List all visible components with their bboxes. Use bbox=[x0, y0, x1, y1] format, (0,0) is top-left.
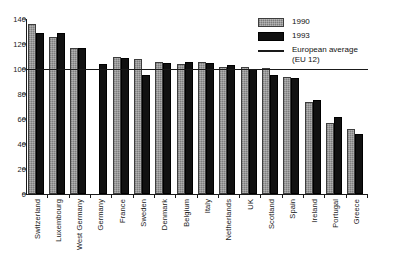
bar-1990 bbox=[283, 77, 291, 195]
bar-1993 bbox=[99, 64, 107, 194]
x-axis-label: Ireland bbox=[311, 199, 319, 223]
x-axis-label: Netherlands bbox=[225, 199, 233, 241]
legend-label-european-average: European average (EU 12) bbox=[292, 45, 358, 64]
bar-1990 bbox=[113, 57, 121, 195]
bar-group bbox=[155, 19, 171, 194]
bar-1990 bbox=[241, 67, 249, 195]
x-axis-label: France bbox=[119, 199, 127, 223]
x-axis-label: UK bbox=[247, 199, 255, 210]
bar-1990 bbox=[305, 102, 313, 195]
bar-1993 bbox=[142, 75, 150, 194]
legend: 1990 1993 European average (EU 12) bbox=[258, 17, 390, 68]
bar-group bbox=[198, 19, 214, 194]
bar-group bbox=[219, 19, 235, 194]
x-axis-label: Scotland bbox=[268, 199, 276, 229]
x-axis-label: Greece bbox=[353, 199, 361, 224]
black-swatch-icon bbox=[258, 32, 284, 41]
bar-1990 bbox=[219, 67, 227, 195]
bar-group bbox=[113, 19, 129, 194]
bar-group bbox=[241, 19, 257, 194]
bar-1993 bbox=[185, 62, 193, 195]
x-axis-label: Spain bbox=[289, 199, 297, 219]
bar-group bbox=[134, 19, 150, 194]
legend-item-1990: 1990 bbox=[258, 17, 390, 27]
european-average-reference-line bbox=[26, 69, 368, 70]
legend-label-1990: 1990 bbox=[292, 17, 310, 27]
bar-1993 bbox=[313, 100, 321, 194]
bar-1993 bbox=[57, 33, 65, 194]
bar-1990 bbox=[347, 129, 355, 194]
bar-1993 bbox=[163, 63, 171, 194]
bar-1990 bbox=[49, 37, 57, 195]
bar-group bbox=[49, 19, 65, 194]
x-axis-label: Belgium bbox=[183, 199, 191, 227]
bar-1990 bbox=[155, 62, 163, 195]
bar-1993 bbox=[36, 33, 44, 194]
bar-1990 bbox=[177, 64, 185, 194]
bar-1990 bbox=[198, 62, 206, 195]
x-axis-label: West Germany bbox=[76, 199, 84, 250]
bar-1993 bbox=[227, 65, 235, 194]
bar-1993 bbox=[121, 58, 129, 194]
bar-1993 bbox=[291, 78, 299, 194]
x-axis-line bbox=[26, 194, 368, 195]
x-axis-label: Portugal bbox=[332, 199, 340, 228]
x-axis-label: Denmark bbox=[161, 199, 169, 230]
bar-1990 bbox=[262, 68, 270, 194]
bar-group bbox=[70, 19, 86, 194]
legend-label-1993: 1993 bbox=[292, 31, 310, 41]
bar-1990 bbox=[28, 24, 36, 194]
bar-1993 bbox=[334, 117, 342, 195]
bar-1993 bbox=[206, 63, 214, 194]
bar-1993 bbox=[270, 75, 278, 194]
reference-line-swatch-icon bbox=[258, 46, 284, 55]
bar-1993 bbox=[355, 134, 363, 194]
bar-chart: 020406080100120140 SwitzerlandLuxembourg… bbox=[0, 0, 393, 278]
x-axis-label: Sweden bbox=[140, 199, 148, 227]
x-axis-label: Italy bbox=[204, 199, 212, 213]
x-axis-label: Switzerland bbox=[34, 199, 42, 239]
bar-1990 bbox=[326, 123, 334, 194]
bar-1993 bbox=[249, 69, 257, 194]
bar-group bbox=[177, 19, 193, 194]
bar-group bbox=[28, 19, 44, 194]
bar-1990 bbox=[134, 59, 142, 194]
gray-hatch-swatch-icon bbox=[258, 18, 284, 27]
x-axis-label: Germany bbox=[97, 199, 105, 231]
x-axis-label: Luxembourg bbox=[55, 199, 63, 242]
legend-item-1993: 1993 bbox=[258, 31, 390, 41]
bar-group bbox=[91, 19, 107, 194]
legend-item-european-average: European average (EU 12) bbox=[258, 45, 390, 64]
